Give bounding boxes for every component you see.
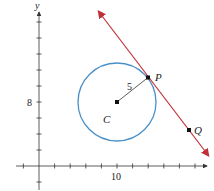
tangent-line-diagram: y 8 10 5 C P Q — [0, 0, 214, 191]
x-axis — [16, 164, 207, 169]
point-label-q: Q — [194, 124, 202, 136]
x-tick-label-10: 10 — [111, 171, 121, 182]
radius-label: 5 — [127, 81, 132, 92]
center-label-c: C — [103, 113, 111, 125]
y-axis-label: y — [34, 0, 40, 11]
y-axis — [37, 12, 42, 190]
point-q-marker — [187, 128, 191, 132]
point-p-marker — [146, 76, 150, 80]
point-label-p: P — [154, 71, 162, 83]
y-tick-label-8: 8 — [27, 97, 32, 108]
point-c-marker — [115, 100, 119, 104]
tangent-line — [99, 12, 208, 155]
radius-segment — [117, 78, 148, 103]
